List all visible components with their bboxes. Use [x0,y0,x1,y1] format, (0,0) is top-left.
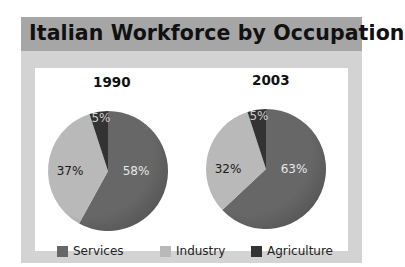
agriculture-swatch [251,246,262,257]
services-swatch [57,246,68,257]
chart-area: 1990 2003 58%37%5% 63%32%5% Services Ind… [35,68,348,251]
label-services: 63% [281,162,308,176]
label-agriculture: 5% [91,111,110,125]
label-services: 58% [123,164,150,178]
legend-item-services: Services [57,244,124,258]
title-bar: Italian Workforce by Occupation [21,17,362,51]
chart-panel: Italian Workforce by Occupation 1990 200… [21,17,362,263]
label-industry: 32% [215,162,242,176]
legend-label-services: Services [73,244,124,258]
legend-label-industry: Industry [176,244,225,258]
industry-swatch [160,246,171,257]
chart-title: Italian Workforce by Occupation [29,21,405,45]
pie-chart-1990: 58%37%5% [48,111,168,231]
label-agriculture: 5% [249,109,268,123]
pie-chart-2003: 63%32%5% [206,109,326,229]
label-industry: 37% [57,164,84,178]
legend-item-agriculture: Agriculture [251,244,333,258]
pies-svg: 58%37%5% 63%32%5% [35,68,348,251]
legend-label-agriculture: Agriculture [267,244,333,258]
legend-item-industry: Industry [160,244,225,258]
legend: Services Industry Agriculture [35,244,348,260]
